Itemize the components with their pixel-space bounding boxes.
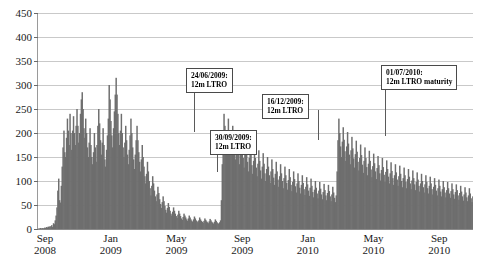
- y-axis: 050100150200250300350400450: [0, 0, 36, 268]
- x-axis-tick-label: May2010: [363, 232, 385, 256]
- y-axis-tick-label: 150: [16, 152, 33, 162]
- x-axis-tick-month: Sep: [34, 232, 56, 244]
- x-axis-tick-month: Sep: [231, 232, 253, 244]
- annotation-date: 01/07/2010:: [386, 68, 452, 77]
- x-axis-tick-year: 2010: [428, 244, 450, 256]
- annotation-label: 12m LTRO: [191, 80, 228, 89]
- x-axis-tick-month: Jan: [297, 232, 319, 244]
- annotation-date: 30/09/2009:: [215, 133, 252, 142]
- x-axis-tick-month: Sep: [428, 232, 450, 244]
- y-axis-tick-label: 100: [16, 176, 33, 186]
- y-axis-tick-label: 50: [21, 200, 32, 210]
- x-axis-tick-month: May: [363, 232, 385, 244]
- chart-container: 050100150200250300350400450 Sep2008Jan20…: [0, 0, 487, 268]
- x-axis-tick-year: 2009: [165, 244, 187, 256]
- y-axis-tick-label: 450: [16, 8, 33, 18]
- x-axis: Sep2008Jan2009May2009Sep2009Jan2010May20…: [0, 232, 487, 266]
- annotation-date: 16/12/2009:: [267, 97, 304, 106]
- annot-24-06-2009: 24/06/2009:12m LTRO: [186, 68, 233, 93]
- x-axis-tick-label: Sep2009: [231, 232, 253, 256]
- annot-30-09-2009: 30/09/2009:12m LTRO: [210, 130, 257, 155]
- y-axis-tick-label: 400: [16, 32, 33, 42]
- plot-area: [37, 13, 473, 229]
- annotation-leader-line: [385, 88, 386, 136]
- annot-01-07-2010: 01/07/2010:12m LTRO maturity: [381, 65, 457, 90]
- annotation-date: 24/06/2009:: [191, 71, 228, 80]
- x-axis-tick-label: Sep2010: [428, 232, 450, 256]
- x-axis-tick-month: May: [165, 232, 187, 244]
- annotation-label: 12m LTRO: [267, 106, 304, 115]
- annot-16-12-2009: 16/12/2009:12m LTRO: [262, 94, 309, 119]
- y-axis-tick-label: 350: [16, 56, 33, 66]
- x-axis-tick-year: 2009: [231, 244, 253, 256]
- gridline: [38, 229, 473, 230]
- y-axis-tick-label: 250: [16, 104, 33, 114]
- x-axis-tick-label: Jan2009: [100, 232, 122, 256]
- x-axis-tick-year: 2008: [34, 244, 56, 256]
- annotation-label: 12m LTRO maturity: [386, 77, 452, 86]
- annotation-label: 12m LTRO: [215, 142, 252, 151]
- x-axis-tick-label: May2009: [165, 232, 187, 256]
- annotation-leader-line: [318, 110, 319, 140]
- x-axis-tick-month: Jan: [100, 232, 122, 244]
- x-axis-tick-label: Jan2010: [297, 232, 319, 256]
- data-series-area: [38, 13, 473, 229]
- y-axis-tick-label: 200: [16, 128, 33, 138]
- x-axis-tick-year: 2010: [297, 244, 319, 256]
- x-axis-tick-year: 2009: [100, 244, 122, 256]
- annotation-leader-line: [194, 88, 195, 132]
- x-axis-tick-year: 2010: [363, 244, 385, 256]
- y-axis-tick-label: 300: [16, 80, 33, 90]
- x-axis-tick-label: Sep2008: [34, 232, 56, 256]
